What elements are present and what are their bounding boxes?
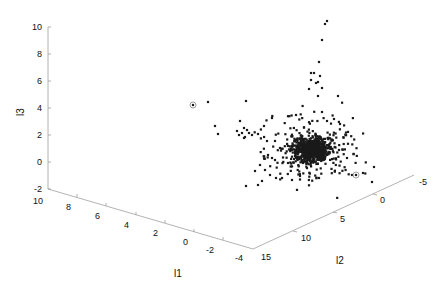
data-point: [192, 104, 194, 106]
data-point: [300, 113, 302, 115]
data-point: [308, 129, 310, 131]
data-point: [321, 39, 323, 41]
data-point: [301, 142, 303, 144]
data-point: [284, 122, 286, 124]
data-point: [329, 134, 331, 136]
data-point: [312, 152, 314, 154]
y-tick: 10: [301, 233, 311, 243]
data-point: [301, 117, 303, 119]
data-point: [299, 149, 301, 151]
data-point: [356, 155, 358, 157]
y-tick: -5: [419, 177, 427, 187]
data-point: [329, 159, 331, 161]
data-point: [217, 133, 219, 135]
x-tick: 6: [95, 211, 100, 221]
data-point: [306, 156, 308, 158]
data-point: [292, 148, 294, 150]
data-point: [331, 172, 333, 174]
data-point: [362, 172, 364, 174]
data-point: [308, 176, 310, 178]
data-point: [325, 150, 327, 152]
data-point: [303, 151, 305, 153]
data-point: [344, 148, 346, 150]
data-point: [241, 132, 243, 134]
data-point: [298, 132, 300, 134]
data-point: [338, 165, 340, 167]
data-point: [314, 155, 316, 157]
data-point: [284, 145, 286, 147]
z-tick: 6: [37, 76, 42, 86]
data-point: [355, 147, 357, 149]
data-point: [303, 126, 305, 128]
data-point: [316, 135, 318, 137]
data-point: [263, 155, 265, 157]
data-point: [316, 142, 318, 144]
data-point: [291, 114, 293, 116]
data-point: [286, 150, 288, 152]
data-point: [254, 131, 256, 133]
data-point: [319, 75, 321, 77]
data-point: [314, 142, 316, 144]
data-point: [287, 145, 289, 147]
data-point: [323, 152, 325, 154]
data-point: [307, 162, 309, 164]
data-point: [311, 143, 313, 145]
data-point: [324, 145, 326, 147]
data-point: [310, 137, 312, 139]
data-point: [331, 148, 333, 150]
data-point: [314, 149, 316, 151]
data-point: [324, 23, 326, 25]
data-point: [343, 143, 345, 145]
data-point: [302, 153, 304, 155]
data-point: [291, 146, 293, 148]
data-point: [284, 133, 286, 135]
data-point: [303, 145, 305, 147]
data-point: [275, 177, 277, 179]
data-point: [300, 157, 302, 159]
data-point: [308, 88, 310, 90]
data-point: [295, 141, 297, 143]
data-point: [327, 132, 329, 134]
data-point: [254, 170, 256, 172]
data-point: [343, 124, 345, 126]
data-point: [302, 155, 304, 157]
data-point: [317, 150, 319, 152]
data-point: [293, 127, 295, 129]
data-point: [296, 129, 298, 131]
data-point: [309, 145, 311, 147]
data-point: [236, 130, 238, 132]
data-point: [311, 120, 313, 122]
data-point: [271, 157, 273, 159]
data-point: [332, 151, 334, 153]
data-point: [296, 189, 298, 191]
data-point: [263, 148, 265, 150]
data-point: [289, 127, 291, 129]
data-point: [351, 143, 353, 145]
data-point: [299, 137, 301, 139]
data-point: [310, 164, 312, 166]
data-point: [339, 123, 341, 125]
data-point: [290, 170, 292, 172]
data-point: [353, 138, 355, 140]
data-point: [336, 197, 338, 199]
data-point: [326, 144, 328, 146]
data-point: [338, 121, 340, 123]
data-point: [362, 132, 364, 134]
data-point: [261, 180, 263, 182]
data-point: [289, 145, 291, 147]
x-tick-labels: 10 8 6 4 2 0 -2 -4: [33, 196, 243, 263]
data-point: [300, 159, 302, 161]
data-point: [245, 185, 247, 187]
data-point: [313, 111, 315, 113]
data-point: [306, 144, 308, 146]
data-point: [337, 95, 339, 97]
data-point: [300, 139, 302, 141]
data-point: [355, 162, 357, 164]
data-point: [316, 153, 318, 155]
data-point: [279, 147, 281, 149]
data-point: [310, 72, 312, 74]
data-point: [350, 135, 352, 137]
data-point: [364, 172, 366, 174]
data-point: [238, 134, 240, 136]
data-point: [290, 163, 292, 165]
